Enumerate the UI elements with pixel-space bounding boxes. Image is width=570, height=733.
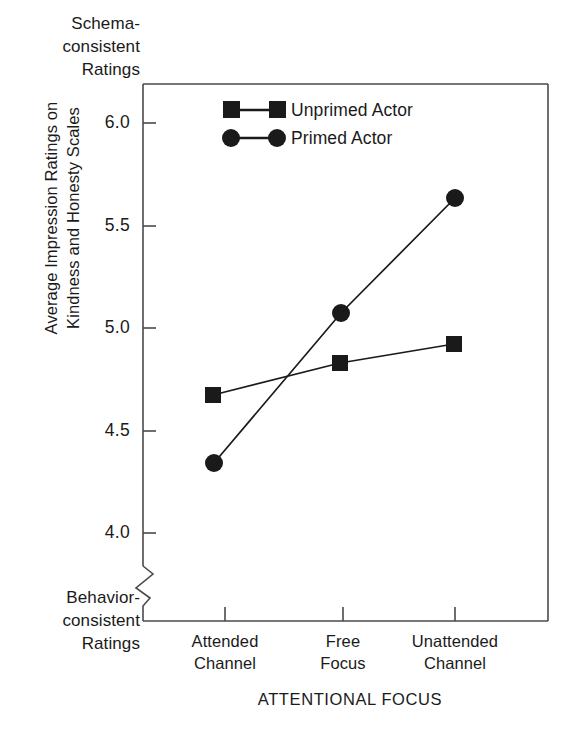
legend-marker-square-unprimed-left (223, 101, 240, 118)
data-point-unprimed-free-focus (332, 355, 348, 371)
legend-marker-square-unprimed-right (269, 101, 286, 118)
y-axis-bottom-annotation: Behavior- consistent Ratings (0, 586, 140, 655)
plot-frame (136, 84, 548, 621)
x-tick-label-unattended-channel: Unattended Channel (385, 630, 525, 674)
x-tick-marks (225, 607, 455, 621)
y-axis-title: Average Impression Ratings on Kindness a… (40, 8, 84, 428)
data-point-unprimed-attended-channel (205, 387, 221, 403)
legend-markers (222, 101, 286, 147)
legend-label-primed-actor: Primed Actor (291, 128, 392, 149)
series-line-primed-actor (214, 198, 455, 463)
data-point-primed-attended-channel (205, 454, 223, 472)
series-unprimed-actor (205, 336, 462, 403)
data-point-unprimed-unattended-channel (446, 336, 462, 352)
x-axis-title: ATTENTIONAL FOCUS (165, 690, 535, 709)
series-primed-actor (205, 189, 464, 472)
y-tick-marks (143, 123, 156, 533)
chart-figure: Unprimed Actor Primed Actor Schema- cons… (0, 0, 570, 733)
y-axis-title-wrapper: Average Impression Ratings on Kindness a… (40, 8, 84, 428)
legend-marker-circle-primed-left (222, 129, 240, 147)
data-point-primed-unattended-channel (446, 189, 464, 207)
y-tick-label-4.0: 4.0 (70, 522, 130, 543)
data-point-primed-free-focus (332, 304, 350, 322)
legend-marker-circle-primed-right (268, 129, 286, 147)
legend-label-unprimed-actor: Unprimed Actor (291, 100, 413, 121)
